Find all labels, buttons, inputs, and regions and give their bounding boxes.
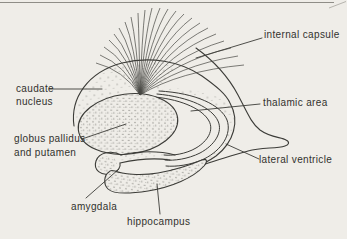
label-amygdala: amygdala [71, 201, 117, 212]
label-caudate-line1: caudate [16, 83, 54, 94]
leader-internal-capsule [196, 38, 262, 58]
figure-canvas: internal capsule caudate nucleus thalami… [0, 0, 347, 239]
label-internal-capsule: internal capsule [264, 29, 340, 40]
label-lateral-ventricle: lateral ventricle [259, 154, 332, 165]
label-thalamic-area: thalamic area [263, 97, 328, 108]
label-hippocampus: hippocampus [127, 216, 190, 227]
label-globus-line1: globus pallidus [14, 133, 85, 144]
leader-lateral-ventricle [226, 144, 259, 159]
page-top-rule [0, 2, 346, 9]
amygdala-shape [95, 152, 175, 174]
label-caudate-line2: nucleus [16, 96, 53, 107]
label-globus-line2: and putamen [14, 147, 76, 158]
